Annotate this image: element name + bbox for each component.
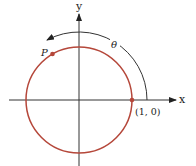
point-one-zero-label: (1, 0) [135, 106, 161, 117]
unit-circle-diagram: y x P θ (1, 0) [0, 0, 196, 166]
point-p [50, 52, 55, 57]
y-axis-label: y [75, 0, 83, 13]
theta-arc [47, 32, 147, 100]
point-p-label: P [40, 47, 48, 58]
theta-label: θ [111, 39, 117, 50]
x-axis-label: x [179, 93, 186, 106]
point-one-zero [130, 98, 135, 103]
